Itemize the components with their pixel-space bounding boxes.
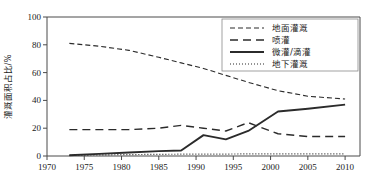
x-tick-label: 1985 bbox=[150, 162, 169, 172]
legend-label-4: 地下灌溉 bbox=[272, 59, 308, 69]
x-tick-label: 1980 bbox=[113, 162, 132, 172]
line-chart: 020406080100 197019751980198519901995200… bbox=[0, 0, 368, 187]
x-tick-label: 1975 bbox=[75, 162, 94, 172]
x-tick-label: 2005 bbox=[299, 162, 318, 172]
x-tick-label: 1995 bbox=[224, 162, 243, 172]
y-tick-label: 20 bbox=[32, 123, 42, 133]
x-tick-label: 1990 bbox=[187, 162, 206, 172]
chart-container: 020406080100 197019751980198519901995200… bbox=[0, 0, 368, 187]
legend-label-1: 地面灌溉 bbox=[272, 23, 308, 33]
x-tick-label: 2010 bbox=[336, 162, 355, 172]
y-tick-label: 60 bbox=[32, 68, 42, 78]
series-line-2 bbox=[69, 123, 345, 137]
legend-label-3: 微灌/滴灌 bbox=[272, 47, 311, 57]
x-tick-label: 2000 bbox=[262, 162, 281, 172]
x-tick-label: 1970 bbox=[38, 162, 57, 172]
y-axis-ticks: 020406080100 bbox=[28, 12, 48, 161]
y-tick-label: 100 bbox=[28, 12, 42, 22]
x-axis-ticks: 197019751980198519901995200020052010 bbox=[38, 156, 355, 172]
y-axis-title-text: 灌溉面积占比/% bbox=[3, 55, 13, 120]
y-tick-label: 40 bbox=[32, 95, 42, 105]
y-axis-title: 灌溉面积占比/% bbox=[3, 55, 13, 120]
y-tick-label: 80 bbox=[32, 40, 42, 50]
legend-label-2: 喷灌 bbox=[272, 35, 290, 45]
chart-legend: 地面灌溉喷灌微灌/滴灌地下灌溉 bbox=[222, 19, 358, 71]
y-tick-label: 0 bbox=[37, 151, 42, 161]
